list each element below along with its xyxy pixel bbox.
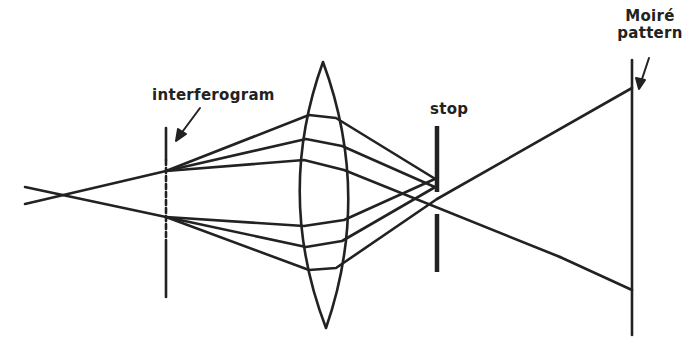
moire-label: Moiré pattern — [610, 8, 688, 42]
optical-diagram — [0, 0, 688, 348]
interferogram-arrow-icon — [176, 108, 200, 141]
moire-label-line2: pattern — [610, 25, 688, 42]
source-rays — [25, 171, 166, 217]
upper-ray-fan — [166, 115, 560, 257]
interferogram-label: interferogram — [152, 86, 275, 104]
lens — [300, 62, 349, 328]
moire-label-line1: Moiré — [610, 8, 688, 25]
stop-label: stop — [430, 100, 468, 118]
output-rays — [437, 88, 632, 290]
moire-arrow-icon — [636, 58, 649, 89]
